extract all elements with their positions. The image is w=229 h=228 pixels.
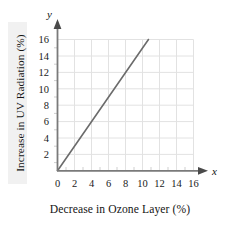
x-tick-label: 8 [123, 178, 128, 189]
y-axis-variable-label: y [46, 8, 52, 20]
chart-figure: Increase in UV Radiation (%) Decrease in… [0, 0, 229, 228]
y-tick-label: 6 [44, 116, 49, 127]
x-tick-labels: 0246810121416 [55, 178, 199, 189]
y-tick-labels: 246810121416 [39, 34, 50, 160]
x-tick-label: 0 [55, 178, 60, 189]
y-tick-label: 14 [39, 51, 50, 62]
x-tick-label: 14 [171, 178, 182, 189]
x-tick-label: 16 [188, 178, 199, 189]
y-tick-label: 16 [39, 34, 50, 45]
y-tick-label: 10 [39, 84, 50, 95]
x-tick-label: 2 [72, 178, 77, 189]
y-tick-label: 4 [44, 133, 50, 144]
x-axis-variable-label: x [211, 165, 217, 177]
y-tick-label: 2 [44, 149, 49, 160]
plot-area: y x 246810121416 0246810121416 [0, 0, 229, 228]
x-tick-label: 4 [89, 178, 95, 189]
y-axis [54, 19, 62, 171]
y-tick-label: 8 [44, 100, 49, 111]
x-tick-label: 12 [154, 178, 165, 189]
x-tick-label: 10 [137, 178, 148, 189]
y-tick-label: 12 [39, 67, 50, 78]
x-tick-label: 6 [106, 178, 111, 189]
